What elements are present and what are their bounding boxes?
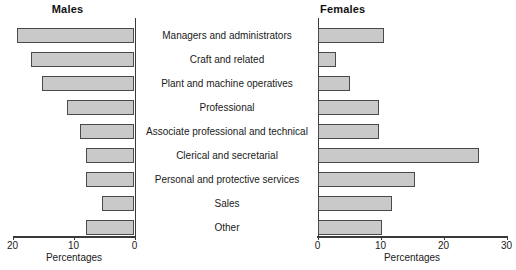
males-bar (31, 52, 135, 67)
females-axis-tick-label: 0 (315, 240, 321, 251)
females-bar-row (317, 120, 516, 144)
category-label: Sales (137, 192, 317, 216)
males-axis-tick-label: 0 (132, 240, 138, 251)
females-axis-tick-label: 10 (375, 240, 386, 251)
females-bar-row (317, 72, 516, 96)
males-panel-title: Males (0, 3, 135, 15)
females-bar-row (317, 96, 516, 120)
females-bar-row (317, 48, 516, 72)
females-axis-tick-label: 30 (501, 240, 512, 251)
males-axis-tick-label: 20 (7, 240, 18, 251)
category-label: Plant and machine operatives (137, 72, 317, 96)
category-label: Other (137, 216, 317, 240)
females-plot-area (317, 18, 516, 236)
females-panel-title: Females (318, 3, 440, 15)
females-bar (318, 220, 383, 235)
males-bar-row (0, 48, 136, 72)
females-bar (318, 100, 380, 115)
males-bar-row (0, 168, 136, 192)
occupation-by-gender-chart: Males Females Managers and administrator… (0, 0, 516, 270)
males-bar-row (0, 72, 136, 96)
females-bar (318, 172, 415, 187)
males-bar (80, 124, 135, 139)
category-label: Associate professional and technical (137, 120, 317, 144)
category-label: Personal and protective services (137, 168, 317, 192)
category-label: Craft and related (137, 48, 317, 72)
males-bar (67, 100, 134, 115)
males-bar (17, 28, 134, 43)
females-axis-tick-label: 20 (438, 240, 449, 251)
females-axis-line (317, 236, 508, 238)
males-bar-row (0, 144, 136, 168)
males-bar-row (0, 120, 136, 144)
females-bar (318, 196, 393, 211)
females-bar-row (317, 24, 516, 48)
category-label: Clerical and secretarial (137, 144, 317, 168)
category-label-column: Managers and administratorsCraft and rel… (137, 18, 317, 236)
category-label: Professional (137, 96, 317, 120)
females-axis-caption: Percentages (384, 252, 440, 263)
category-label: Managers and administrators (137, 24, 317, 48)
females-bar (318, 148, 480, 163)
females-bar-row (317, 168, 516, 192)
males-bar (42, 76, 135, 91)
males-bar-row (0, 24, 136, 48)
males-axis-tick-label: 10 (68, 240, 79, 251)
males-bar (102, 196, 135, 211)
males-bar-row (0, 96, 136, 120)
females-bar (318, 52, 336, 67)
males-bar (86, 172, 135, 187)
males-bar (86, 220, 135, 235)
females-bar-row (317, 192, 516, 216)
females-bar-row (317, 144, 516, 168)
males-plot-area (0, 18, 136, 236)
males-axis-caption: Percentages (46, 252, 102, 263)
females-bar (318, 124, 380, 139)
males-bar-row (0, 192, 136, 216)
females-bar (318, 76, 350, 91)
females-bar (318, 28, 385, 43)
males-bar (86, 148, 135, 163)
